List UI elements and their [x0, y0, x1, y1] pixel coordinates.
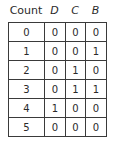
cell-d: 0: [45, 80, 66, 99]
cell-count: 3: [9, 80, 45, 99]
cell-b: 0: [86, 23, 107, 42]
table-row: 4 1 0 0: [9, 99, 107, 118]
table-row: 1 0 0 1: [9, 42, 107, 61]
table-row: 2 0 1 0: [9, 61, 107, 80]
cell-b: 1: [86, 42, 107, 61]
cell-count: 0: [9, 23, 45, 42]
cell-count: 5: [9, 118, 45, 137]
cell-count: 2: [9, 61, 45, 80]
header-d: D: [44, 4, 65, 17]
cell-d: 0: [45, 61, 66, 80]
cell-b: 1: [86, 80, 107, 99]
cell-b: 0: [86, 118, 107, 137]
cell-c: 0: [66, 23, 86, 42]
cell-d: 0: [45, 42, 66, 61]
cell-count: 4: [9, 99, 45, 118]
cell-count: 1: [9, 42, 45, 61]
count-truth-table: 0 0 0 0 1 0 0 1 2 0 1 0 3 0 1 1 4 1 0 0: [8, 22, 107, 137]
cell-c: 1: [66, 61, 86, 80]
table-row: 3 0 1 1: [9, 80, 107, 99]
table-row: 5 0 0 0: [9, 118, 107, 137]
cell-c: 1: [66, 80, 86, 99]
table-row: 0 0 0 0: [9, 23, 107, 42]
cell-b: 0: [86, 99, 107, 118]
cell-b: 0: [86, 61, 107, 80]
cell-d: 1: [45, 99, 66, 118]
header-c: C: [65, 4, 85, 17]
cell-d: 0: [45, 118, 66, 137]
cell-c: 0: [66, 99, 86, 118]
cell-c: 0: [66, 118, 86, 137]
cell-c: 0: [66, 42, 86, 61]
cell-d: 0: [45, 23, 66, 42]
header-b: B: [85, 4, 106, 17]
header-count: Count: [8, 4, 44, 17]
